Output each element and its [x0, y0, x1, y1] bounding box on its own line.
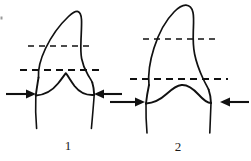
figure-2-root-mesial [146, 104, 147, 134]
figure-2-left-cervical-arrow [110, 98, 145, 107]
figure-2-crown-outline [149, 5, 209, 89]
figure-plate: 1 2 [0, 0, 251, 161]
figure-1-group [6, 11, 122, 128]
figure-2-cervical-curve [146, 85, 211, 104]
edge-speck [1, 17, 3, 20]
figure-2-right-cervical-edge [209, 90, 211, 104]
figure-1-cervical-curve [36, 73, 94, 95]
figure-1-crown-outline [38, 11, 92, 82]
figure-1-root-distal [91, 95, 94, 129]
figure-2-left-cervical-edge [146, 85, 149, 104]
figure-2-group [110, 5, 249, 133]
figure-2-root-distal [210, 103, 211, 133]
tooth-comparison-diagram [0, 0, 251, 161]
figure-1-left-cervical-edge [36, 78, 39, 96]
figure-1-root-mesial [36, 96, 37, 129]
figure-1-caption: 1 [58, 139, 78, 152]
figure-1-left-cervical-arrow [6, 90, 36, 99]
figure-2-caption: 2 [168, 140, 188, 153]
figure-1-right-cervical-edge [92, 83, 94, 96]
figure-2-right-cervical-arrow [220, 98, 249, 107]
figure-1-right-cervical-arrow [94, 90, 122, 99]
